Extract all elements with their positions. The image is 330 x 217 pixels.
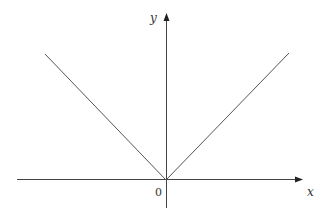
x-axis-label: x [307,185,314,199]
function-graph: y x 0 [0,0,330,217]
y-axis-label: y [149,11,157,25]
origin-label: 0 [155,186,162,199]
